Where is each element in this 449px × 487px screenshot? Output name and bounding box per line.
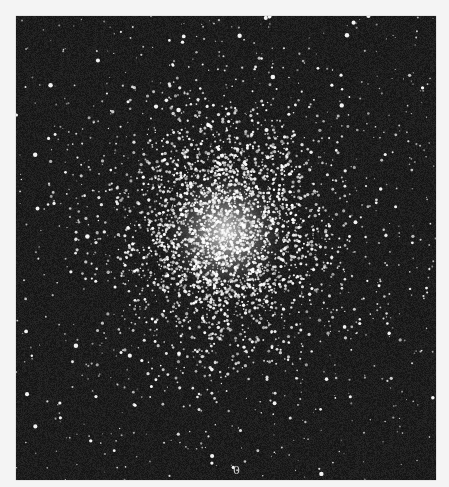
plate-label: 0 (233, 465, 240, 476)
star-field (16, 16, 436, 480)
star-cluster-photo: 0 (16, 16, 436, 480)
